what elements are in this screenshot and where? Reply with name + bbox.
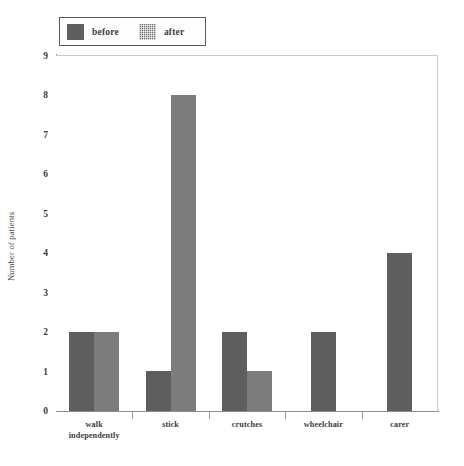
bar-before (69, 332, 94, 411)
y-tick-label: 1 (30, 367, 48, 377)
x-label-line: walk (56, 419, 132, 430)
plot-area (56, 55, 438, 411)
x-axis-separator (132, 412, 133, 419)
x-label-line: wheelchair (285, 419, 361, 430)
y-tick-label: 3 (30, 288, 48, 298)
bar-after (247, 371, 272, 411)
x-label-line: carer (362, 419, 438, 430)
legend-swatch-after-icon (139, 24, 156, 40)
legend-swatch-before-icon (67, 24, 84, 40)
legend-label-after: after (164, 27, 185, 37)
y-tick-label: 8 (30, 90, 48, 100)
x-label-line: crutches (209, 419, 285, 430)
legend-row: before after (60, 18, 205, 45)
y-tick-label: 0 (30, 406, 48, 416)
y-tick-label: 5 (30, 209, 48, 219)
bar-after (94, 332, 119, 411)
bar-group-wheelchair (285, 332, 361, 411)
y-tick-label: 2 (30, 327, 48, 337)
legend-entry-before: before (67, 24, 119, 40)
chart-legend: before after (59, 17, 206, 46)
x-label-line: independently (56, 430, 132, 441)
x-axis-separator (209, 412, 210, 419)
bar-group-walk-independently (56, 332, 132, 411)
y-tick-label: 7 (30, 130, 48, 140)
y-axis-title: Number of patients (6, 196, 20, 296)
x-axis-label-wheelchair: wheelchair (285, 419, 361, 430)
bar-before (146, 371, 171, 411)
x-axis-label-stick: stick (132, 419, 208, 430)
legend-entry-after: after (139, 24, 185, 40)
bar-before (311, 332, 336, 411)
y-tick-label: 6 (30, 169, 48, 179)
x-axis-label-crutches: crutches (209, 419, 285, 430)
bar-before (222, 332, 247, 411)
bar-before (387, 253, 412, 411)
bar-group-stick (132, 95, 208, 411)
x-axis-line (56, 411, 439, 412)
x-label-line: stick (132, 419, 208, 430)
legend-label-before: before (92, 27, 119, 37)
bar-group-crutches (209, 332, 285, 411)
y-tick-label: 4 (30, 248, 48, 258)
x-axis-separator (285, 412, 286, 419)
x-axis-label-walk-independently: walk independently (56, 419, 132, 441)
bar-after (171, 95, 196, 411)
y-tick-label: 9 (30, 51, 48, 61)
x-axis-label-carer: carer (362, 419, 438, 430)
bar-group-carer (362, 253, 438, 411)
x-axis-separator (362, 412, 363, 419)
